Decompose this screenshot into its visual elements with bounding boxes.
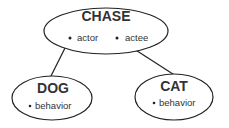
slot-actee-bullet-icon	[116, 37, 119, 40]
node-cat-title: CAT	[160, 78, 188, 94]
node-dog-title: DOG	[37, 80, 69, 96]
dog-behavior-bullet-icon	[29, 105, 32, 108]
slot-actee-label: actee	[125, 32, 148, 43]
node-cat: CAT behavior	[135, 74, 213, 120]
dog-behavior-label: behavior	[35, 100, 71, 111]
cat-behavior-bullet-icon	[153, 102, 156, 105]
cat-behavior-label: behavior	[159, 97, 195, 108]
node-chase: CHASE actor actee	[44, 8, 168, 54]
node-chase-title: CHASE	[81, 8, 130, 24]
node-dog: DOG behavior	[12, 76, 92, 120]
slot-actor-bullet-icon	[69, 37, 72, 40]
frame-diagram: CHASE actor actee DOG behavior CAT behav…	[0, 0, 229, 128]
slot-actor-label: actor	[77, 32, 98, 43]
